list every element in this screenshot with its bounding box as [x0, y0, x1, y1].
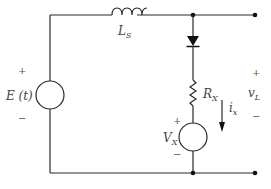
e-label: E (t) — [5, 89, 33, 103]
diode-icon — [187, 36, 199, 46]
resistor-label: RX — [202, 87, 218, 103]
vx-plus: + — [173, 115, 181, 126]
node-bottom — [191, 171, 196, 176]
inductor-icon — [112, 8, 147, 15]
resistor-icon — [190, 80, 196, 106]
circuit-diagram: + E (t) − LS RX + VX − ix + vL − — [0, 0, 271, 189]
vl-plus: + — [252, 67, 260, 78]
e-source-icon — [36, 81, 64, 109]
vl-minus: − — [252, 111, 260, 122]
e-plus: + — [18, 65, 26, 76]
vl-label: vL — [248, 86, 260, 102]
vx-minus: − — [173, 149, 181, 160]
vx-source-icon — [179, 123, 207, 151]
terminal-top — [253, 13, 258, 18]
current-arrow-icon — [219, 122, 225, 132]
current-label: ix — [229, 101, 238, 117]
vx-label: VX — [163, 131, 178, 147]
e-minus: − — [18, 113, 26, 124]
terminal-bottom — [253, 171, 258, 176]
inductor-label: LS — [117, 24, 132, 40]
